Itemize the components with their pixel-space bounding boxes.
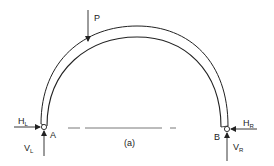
arch-diagram: P A HL VL B HR VR (a) [0,0,274,166]
h-left-label: HL [18,116,29,127]
load-label: P [94,13,100,23]
v-left-label: VL [24,143,34,154]
support-a-label: A [50,130,56,140]
pin-a-icon [41,124,46,129]
support-b-label: B [214,132,220,142]
pin-b-icon [224,126,229,131]
arch-outer-edge [41,26,228,126]
figure-caption: (a) [124,138,135,148]
v-right-label: VR [233,142,244,153]
h-right-label: HR [243,118,255,129]
arch-inner-edge [47,37,221,127]
